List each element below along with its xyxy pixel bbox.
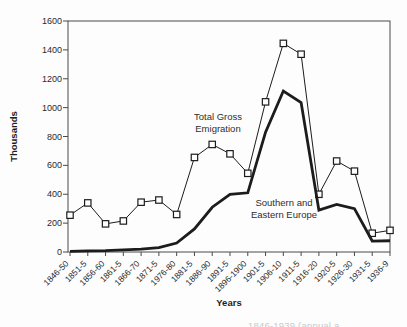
y-tick-label: 1200 bbox=[24, 74, 62, 84]
data-point-marker bbox=[102, 221, 108, 227]
y-tick-label: 0 bbox=[24, 247, 62, 257]
y-tick-label: 1600 bbox=[24, 16, 62, 26]
data-point-marker bbox=[156, 197, 162, 203]
data-point-marker bbox=[173, 211, 179, 217]
data-point-marker bbox=[120, 218, 126, 224]
data-point-marker bbox=[227, 151, 233, 157]
data-point-marker bbox=[387, 227, 393, 233]
y-tick-label: 400 bbox=[24, 189, 62, 199]
series-label-southern-eastern-europe: Southern and Eastern Europe bbox=[234, 197, 334, 221]
data-point-marker bbox=[67, 212, 73, 218]
plot-border bbox=[68, 21, 390, 252]
data-point-marker bbox=[209, 141, 215, 147]
y-axis-title: Thousands bbox=[8, 77, 21, 197]
y-tick-label: 1000 bbox=[24, 103, 62, 113]
data-point-marker bbox=[280, 40, 286, 46]
cropped-caption-fragment: 1846-1939 (annual a bbox=[248, 320, 407, 327]
series-label-total-gross-emigration: Total Gross Emigration bbox=[168, 111, 268, 135]
y-tick-label: 800 bbox=[24, 132, 62, 142]
y-tick-label: 1400 bbox=[24, 45, 62, 55]
data-point-marker bbox=[333, 158, 339, 164]
data-point-marker bbox=[298, 51, 304, 57]
data-point-marker bbox=[262, 99, 268, 105]
y-tick-label: 200 bbox=[24, 218, 62, 228]
data-point-marker bbox=[351, 168, 357, 174]
emigration-line-chart-figure: Thousands Years Total Gross Emigration S… bbox=[0, 0, 407, 327]
data-point-marker bbox=[245, 170, 251, 176]
data-point-marker bbox=[85, 200, 91, 206]
y-tick-label: 600 bbox=[24, 160, 62, 170]
data-point-marker bbox=[191, 154, 197, 160]
data-point-marker bbox=[138, 199, 144, 205]
